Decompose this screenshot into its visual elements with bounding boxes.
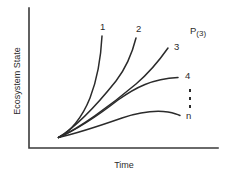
curve-label-n: n [186,111,191,121]
ellipsis-dot [189,89,192,92]
p-annotation-paren: (3) [196,29,206,38]
curve-1 [59,36,103,138]
vertical-ellipsis [187,89,193,111]
figure-container: 1 2 3 4 n P(3) Ecosystem State Time [0,0,228,180]
curve-label-2: 2 [136,24,141,34]
y-axis-title: Ecosystem State [12,33,22,129]
ellipsis-dot [189,97,192,100]
ellipsis-dot [189,105,192,108]
curve-label-4: 4 [185,71,190,81]
curve-4 [59,78,179,138]
curve-2 [59,38,137,138]
curve-label-3: 3 [174,42,179,52]
p-annotation: P(3) [190,25,206,36]
curve-label-1: 1 [100,22,105,32]
x-axis-title: Time [29,160,219,170]
